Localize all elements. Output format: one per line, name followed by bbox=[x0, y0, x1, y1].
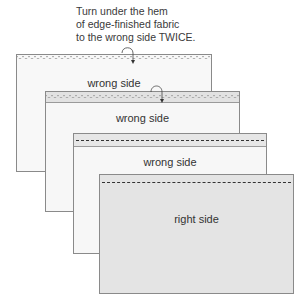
panel-label: wrong side bbox=[17, 77, 211, 89]
fold-arrow-icon bbox=[148, 81, 168, 105]
finished-edge bbox=[46, 95, 239, 100]
hem-fold bbox=[74, 134, 266, 147]
hem-fold bbox=[46, 92, 239, 103]
panel-label: wrong side bbox=[74, 156, 266, 168]
fold-arrow-icon bbox=[118, 44, 138, 66]
stitch-line bbox=[102, 182, 291, 183]
caption-line-3: to the wrong side TWICE. bbox=[76, 31, 195, 44]
stitch-line bbox=[76, 140, 264, 141]
caption-line-2: of edge-finished fabric bbox=[76, 18, 195, 31]
finished-edge bbox=[17, 56, 211, 61]
fabric-panel-step-4: right side bbox=[99, 174, 294, 294]
instruction-caption: Turn under the hem of edge-finished fabr… bbox=[76, 5, 195, 44]
caption-line-1: Turn under the hem bbox=[76, 5, 195, 18]
panel-label: right side bbox=[100, 213, 293, 225]
panel-label: wrong side bbox=[46, 112, 239, 124]
